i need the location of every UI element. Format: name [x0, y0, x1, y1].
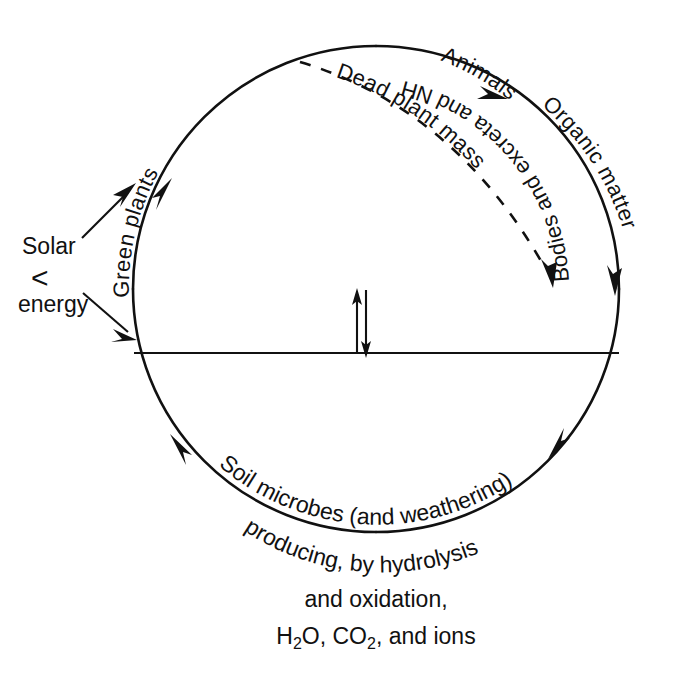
products-h2o-subscript: 2	[293, 635, 302, 652]
solar-arrow-down-head	[111, 329, 137, 342]
solar-label-line1: Solar	[22, 233, 76, 259]
central-exchange-arrows	[352, 288, 371, 358]
products-label: H2O, CO2, and ions	[276, 623, 475, 652]
and-oxidation-label: and oxidation,	[304, 586, 447, 612]
bodies-and-excreta-label: Bodies and excreta and NH4+	[0, 0, 574, 283]
solar-label-line2: energy	[18, 291, 89, 317]
circle-arrowhead-lower-left	[170, 434, 192, 465]
cycle-diagram-svg: Solar < energy Green plants Animals Dead…	[0, 0, 674, 676]
nutrient-cycle-figure: Solar < energy Green plants Animals Dead…	[0, 0, 674, 676]
solar-arrow-down-shaft	[83, 293, 128, 332]
cycle-circle-group	[133, 46, 619, 532]
green-plants-label: Green plants	[109, 163, 164, 298]
solar-bracket-glyph: <	[31, 261, 49, 294]
circle-arrowhead-lower-right	[548, 428, 570, 459]
products-co2-subscript: 2	[367, 635, 376, 652]
green-plants-label-text: Green plants	[109, 163, 164, 298]
products-h2o: H	[276, 623, 293, 649]
bodies-and-excreta-subscript: 4	[0, 0, 5, 8]
products-h2o-tail: O, CO	[302, 623, 367, 649]
products-tail: , and ions	[376, 623, 476, 649]
